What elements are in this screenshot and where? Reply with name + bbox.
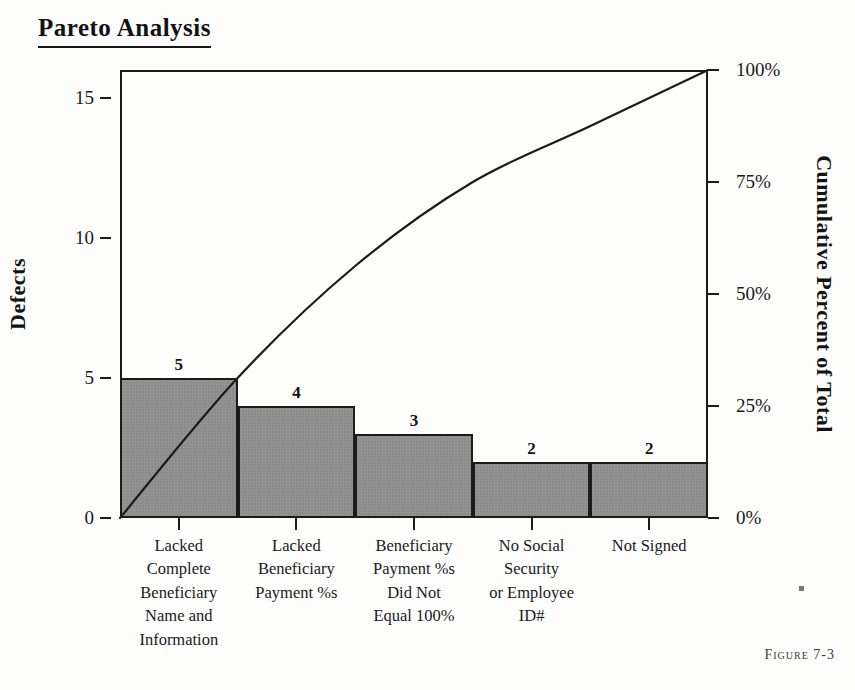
x-axis-category-label: LackedBeneficiaryPayment %s bbox=[238, 534, 356, 604]
x-axis-category-label: No SocialSecurityor EmployeeID# bbox=[473, 534, 591, 628]
x-axis-category-label: LackedCompleteBeneficiaryName andInforma… bbox=[120, 534, 238, 651]
x-tick-mark bbox=[178, 518, 180, 530]
y2-tick-mark bbox=[708, 181, 719, 183]
y2-axis-title: Cumulative Percent of Total bbox=[811, 155, 837, 433]
x-axis-labels: LackedCompleteBeneficiaryName andInforma… bbox=[120, 534, 708, 651]
page-title: Pareto Analysis bbox=[38, 12, 211, 48]
y-tick-label: 10 bbox=[75, 227, 94, 249]
x-tick-cell bbox=[590, 518, 708, 532]
x-axis-category-line: Equal 100% bbox=[357, 604, 471, 627]
y2-tick-label: 0% bbox=[736, 507, 761, 529]
x-axis-category-line: Not Signed bbox=[592, 534, 706, 557]
y-tick-mark bbox=[100, 237, 111, 239]
y-axis-title: Defects bbox=[5, 258, 31, 330]
y-tick-mark bbox=[100, 97, 111, 99]
cumulative-line-path bbox=[120, 70, 708, 518]
x-axis-category-label: Not Signed bbox=[590, 534, 708, 557]
x-tick-cell bbox=[355, 518, 473, 532]
x-axis-ticks bbox=[120, 518, 708, 532]
y2-tick-mark bbox=[708, 293, 719, 295]
x-axis-category-line: Complete bbox=[122, 557, 236, 580]
x-axis-category-line: Information bbox=[122, 628, 236, 651]
x-axis-category-line: ID# bbox=[475, 604, 589, 627]
y2-tick-label: 25% bbox=[736, 395, 771, 417]
y-tick-label: 15 bbox=[75, 87, 94, 109]
x-axis-category-line: Did Not bbox=[357, 581, 471, 604]
y2-tick-mark bbox=[708, 405, 719, 407]
y2-tick-label: 75% bbox=[736, 171, 771, 193]
x-axis-category-line: Security bbox=[475, 557, 589, 580]
x-axis-category-line: Lacked bbox=[240, 534, 354, 557]
y-tick-mark bbox=[100, 377, 111, 379]
y2-tick-label: 50% bbox=[736, 283, 771, 305]
x-axis-category-line: Payment %s bbox=[240, 581, 354, 604]
y2-tick-mark bbox=[708, 69, 719, 71]
x-axis-category-line: Name and bbox=[122, 604, 236, 627]
figure-caption: Figure 7-3 bbox=[765, 647, 836, 663]
x-tick-mark bbox=[413, 518, 415, 530]
cumulative-line-chart bbox=[120, 70, 708, 518]
y-tick-label: 5 bbox=[85, 367, 95, 389]
x-axis-category-label: BeneficiaryPayment %sDid NotEqual 100% bbox=[355, 534, 473, 628]
x-tick-mark bbox=[531, 518, 533, 530]
x-tick-mark bbox=[648, 518, 650, 530]
right-axis: Cumulative Percent of Total 0%25%50%75%1… bbox=[708, 70, 855, 518]
x-axis-category-line: Payment %s bbox=[357, 557, 471, 580]
x-axis-category-line: Beneficiary bbox=[122, 581, 236, 604]
plot-area: 54322 bbox=[120, 70, 708, 518]
x-tick-mark bbox=[295, 518, 297, 530]
y-tick-mark bbox=[100, 517, 111, 519]
left-axis: Defects 051015 bbox=[0, 70, 120, 518]
y2-tick-mark bbox=[708, 517, 719, 519]
x-axis-category-line: Lacked bbox=[122, 534, 236, 557]
x-tick-cell bbox=[473, 518, 591, 532]
x-tick-cell bbox=[238, 518, 356, 532]
scan-artifact-speck bbox=[799, 586, 804, 591]
x-axis-category-line: Beneficiary bbox=[240, 557, 354, 580]
x-axis-category-line: No Social bbox=[475, 534, 589, 557]
y2-tick-label: 100% bbox=[736, 59, 780, 81]
y-tick-label: 0 bbox=[85, 507, 95, 529]
x-tick-cell bbox=[120, 518, 238, 532]
x-axis-category-line: Beneficiary bbox=[357, 534, 471, 557]
x-axis-category-line: or Employee bbox=[475, 581, 589, 604]
